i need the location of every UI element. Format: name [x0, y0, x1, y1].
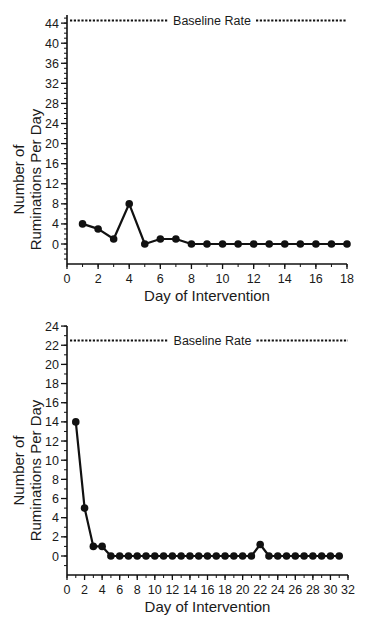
- x-tick-label: 6: [157, 272, 164, 286]
- x-tick-label: 18: [218, 583, 232, 597]
- x-tick-label: 16: [309, 272, 323, 286]
- data-point: [309, 552, 317, 560]
- y-tick-label: 4: [52, 217, 59, 231]
- x-axis-title: Day of Intervention: [145, 598, 271, 615]
- data-point: [283, 552, 291, 560]
- data-point: [212, 552, 220, 560]
- y-tick-label: 24: [45, 320, 59, 334]
- x-tick-label: 18: [340, 272, 354, 286]
- y-tick-label: 6: [52, 492, 59, 506]
- data-point: [221, 552, 229, 560]
- top-chart: 048121620242832364044024681012141618Day …: [10, 14, 354, 304]
- y-tick-label: 12: [45, 177, 59, 191]
- y-axis-title: Number ofRuminations Per Day: [10, 108, 44, 250]
- data-point: [281, 240, 289, 248]
- data-point: [177, 552, 185, 560]
- data-point: [204, 552, 212, 560]
- data-point: [186, 552, 194, 560]
- data-point: [256, 541, 264, 549]
- y-tick-label: 12: [45, 435, 59, 449]
- x-tick-label: 8: [188, 272, 195, 286]
- data-point: [125, 552, 133, 560]
- data-point: [125, 200, 133, 208]
- y-tick-label: 0: [52, 238, 59, 252]
- x-tick-label: 4: [126, 272, 133, 286]
- y-tick-label: 36: [45, 57, 59, 71]
- data-point: [133, 552, 141, 560]
- x-tick-label: 10: [148, 583, 162, 597]
- data-point: [327, 552, 335, 560]
- y-tick-label: 4: [52, 511, 59, 525]
- y-tick-label: 16: [45, 157, 59, 171]
- data-point: [318, 552, 326, 560]
- y-tick-label: 16: [45, 396, 59, 410]
- data-point: [248, 552, 256, 560]
- y-tick-label: 32: [45, 77, 59, 91]
- data-point: [250, 240, 258, 248]
- baseline-label: Baseline Rate: [174, 334, 252, 348]
- data-point: [328, 240, 336, 248]
- y-tick-label: 18: [45, 377, 59, 391]
- data-point: [157, 235, 165, 243]
- x-tick-label: 6: [116, 583, 123, 597]
- data-point: [239, 552, 247, 560]
- data-point: [141, 240, 149, 248]
- data-line: [76, 422, 339, 556]
- data-point: [188, 240, 196, 248]
- data-point: [219, 240, 227, 248]
- bottom-chart: 0246810121416182022240246810121416182022…: [10, 320, 355, 615]
- x-tick-label: 0: [64, 583, 71, 597]
- data-point: [335, 552, 343, 560]
- data-point: [107, 552, 115, 560]
- data-point: [234, 240, 242, 248]
- data-point: [292, 552, 300, 560]
- y-tick-label: 40: [45, 37, 59, 51]
- x-tick-label: 20: [236, 583, 250, 597]
- data-point: [297, 240, 305, 248]
- y-tick-label: 0: [52, 550, 59, 564]
- data-point: [160, 552, 168, 560]
- x-axis-title: Day of Intervention: [144, 287, 270, 304]
- x-tick-label: 14: [278, 272, 292, 286]
- x-tick-label: 16: [201, 583, 215, 597]
- y-tick-label: 28: [45, 97, 59, 111]
- data-point: [265, 240, 273, 248]
- x-tick-label: 4: [99, 583, 106, 597]
- y-tick-label: 44: [45, 17, 59, 31]
- data-point: [265, 552, 273, 560]
- x-tick-label: 32: [341, 583, 355, 597]
- y-tick-label: 22: [45, 339, 59, 353]
- x-tick-label: 26: [288, 583, 302, 597]
- data-point: [151, 552, 159, 560]
- chart-canvas: 048121620242832364044024681012141618Day …: [0, 0, 367, 623]
- data-point: [230, 552, 238, 560]
- x-tick-label: 14: [183, 583, 197, 597]
- x-tick-label: 2: [81, 583, 88, 597]
- x-tick-label: 0: [64, 272, 71, 286]
- y-tick-label: 20: [45, 137, 59, 151]
- y-tick-label: 10: [45, 454, 59, 468]
- data-point: [195, 552, 203, 560]
- baseline-label: Baseline Rate: [173, 14, 251, 28]
- x-tick-label: 22: [253, 583, 267, 597]
- x-tick-label: 10: [216, 272, 230, 286]
- data-point: [81, 504, 89, 512]
- x-tick-label: 2: [95, 272, 102, 286]
- data-point: [312, 240, 320, 248]
- y-tick-label: 14: [45, 415, 59, 429]
- data-point: [90, 543, 98, 551]
- y-tick-label: 8: [52, 197, 59, 211]
- data-point: [300, 552, 308, 560]
- data-point: [72, 418, 80, 426]
- data-point: [343, 240, 351, 248]
- data-point: [79, 220, 87, 228]
- data-point: [110, 235, 118, 243]
- y-tick-label: 2: [52, 530, 59, 544]
- x-tick-label: 30: [323, 583, 337, 597]
- data-point: [274, 552, 282, 560]
- y-tick-label: 24: [45, 117, 59, 131]
- data-point: [169, 552, 177, 560]
- data-point: [172, 235, 180, 243]
- data-point: [94, 225, 102, 233]
- data-point: [142, 552, 150, 560]
